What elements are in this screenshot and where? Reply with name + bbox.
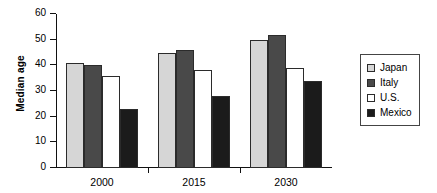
- legend-swatch-icon: [367, 94, 375, 102]
- bar-us-2015: [194, 70, 212, 168]
- bar-italy-2015: [176, 50, 194, 168]
- legend: JapanItalyU.S.Mexico: [360, 54, 420, 126]
- legend-item-label: Japan: [380, 62, 407, 73]
- bar-mexico-2030: [304, 81, 322, 168]
- bar-us-2030: [286, 68, 304, 168]
- y-axis-title: Median age: [15, 34, 26, 134]
- plot-area: 0102030405060 200020152030: [56, 14, 332, 168]
- legend-item-japan: Japan: [367, 60, 412, 75]
- legend-swatch-icon: [367, 109, 375, 117]
- bar-us-2000: [102, 76, 120, 168]
- y-axis-tick: 0: [50, 167, 56, 168]
- y-axis-tick-label: 10: [35, 134, 46, 147]
- y-axis-tick: 50: [50, 39, 56, 40]
- legend-item-label: Italy: [380, 77, 398, 88]
- y-axis-tick: 30: [50, 90, 56, 91]
- y-axis-tick: 10: [50, 141, 56, 142]
- y-axis-line: [56, 14, 57, 168]
- y-axis-tick: 40: [50, 64, 56, 65]
- bar-mexico-2015: [212, 96, 230, 168]
- legend-swatch-icon: [367, 79, 375, 87]
- bar-japan-2030: [250, 40, 268, 168]
- y-axis-tick: 20: [50, 116, 56, 117]
- legend-item-label: Mexico: [380, 107, 412, 118]
- x-axis-group-label: 2000: [90, 176, 113, 188]
- y-axis-tick-label: 40: [35, 57, 46, 70]
- legend-swatch-icon: [367, 64, 375, 72]
- x-axis-tick: [240, 168, 241, 173]
- x-axis-group-label: 2015: [182, 176, 205, 188]
- y-axis-tick: 60: [50, 13, 56, 14]
- legend-item-label: U.S.: [380, 92, 399, 103]
- y-axis-tick-label: 50: [35, 32, 46, 45]
- y-axis-tick-label: 60: [35, 6, 46, 19]
- x-axis-group-label: 2030: [274, 176, 297, 188]
- median-age-bar-chart: Median age 0102030405060 200020152030 Ja…: [0, 0, 437, 193]
- y-axis-tick-label: 30: [35, 83, 46, 96]
- legend-item-mexico: Mexico: [367, 105, 412, 120]
- legend-item-us: U.S.: [367, 90, 412, 105]
- bar-japan-2015: [158, 53, 176, 169]
- legend-item-italy: Italy: [367, 75, 412, 90]
- bar-italy-2000: [84, 65, 102, 168]
- bar-italy-2030: [268, 35, 286, 168]
- x-axis-tick: [148, 168, 149, 173]
- y-axis-tick-label: 20: [35, 109, 46, 122]
- bar-mexico-2000: [120, 109, 138, 168]
- bar-japan-2000: [66, 63, 84, 168]
- y-axis-tick-label: 0: [40, 160, 46, 173]
